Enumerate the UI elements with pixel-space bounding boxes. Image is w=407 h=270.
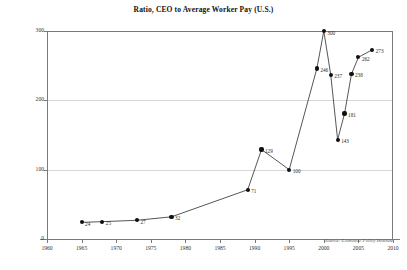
y-tick-label-wrap-200: 200 — [0, 96, 44, 104]
data-point-label: 129 — [265, 148, 273, 154]
x-tick-mark-1985 — [220, 239, 221, 243]
x-tick-mark-1960 — [47, 239, 48, 243]
data-point-label: 100 — [293, 168, 301, 174]
y-tick-label-wrap-100: 100 — [0, 166, 44, 174]
x-tick-mark-1975 — [151, 239, 152, 243]
x-tick-mark-1970 — [116, 239, 117, 243]
y-tick-label-wrap-0: 0 — [0, 235, 44, 243]
x-tick-mark-1980 — [185, 239, 186, 243]
data-point-label: 27 — [140, 219, 145, 225]
data-point-label: 273 — [376, 48, 384, 54]
data-point-marker — [259, 147, 263, 151]
y-tick-mark-300 — [44, 31, 48, 32]
x-tick-mark-1995 — [289, 239, 290, 243]
x-tick-mark-1990 — [255, 239, 256, 243]
x-tick-label: 2010 — [378, 245, 407, 251]
data-point-marker — [329, 73, 333, 77]
chart-container: Ratio, CEO to Average Worker Pay (U.S.) … — [0, 0, 407, 270]
data-point-label: 71 — [251, 188, 256, 194]
data-point-label: 181 — [348, 112, 356, 118]
x-tick-label: 1970 — [101, 245, 131, 251]
x-tick-mark-2010 — [393, 239, 394, 243]
x-tick-label: 1985 — [205, 245, 235, 251]
y-tick-label: 300 — [4, 27, 44, 33]
data-point-marker — [315, 66, 319, 70]
data-point-marker — [246, 188, 250, 192]
x-tick-label: 1975 — [136, 245, 166, 251]
y-tick-label: 100 — [4, 166, 44, 172]
source-note: Source: Economic Policy Institute — [325, 238, 393, 243]
data-point-label: 25 — [106, 220, 111, 226]
y-tick-label: 200 — [4, 96, 44, 102]
data-point-label: 246 — [320, 67, 328, 73]
data-point-label: 262 — [362, 56, 370, 62]
y-tick-label-wrap-300: 300 — [0, 27, 44, 35]
x-tick-label: 1980 — [170, 245, 200, 251]
data-point-marker — [349, 72, 353, 76]
data-point-label: 238 — [355, 72, 363, 78]
x-tick-mark-1965 — [82, 239, 83, 243]
data-point-label: 32 — [175, 215, 180, 221]
data-point-marker — [322, 29, 326, 33]
y-tick-label: 0 — [4, 235, 44, 241]
x-tick-label: 2000 — [309, 245, 339, 251]
data-point-marker — [342, 111, 346, 115]
data-point-marker — [287, 168, 291, 172]
data-point-label: 143 — [341, 138, 349, 144]
data-point-label: 237 — [334, 73, 342, 79]
x-tick-label: 1990 — [240, 245, 270, 251]
data-point-marker — [336, 138, 340, 142]
x-tick-label: 1960 — [32, 245, 62, 251]
y-tick-mark-100 — [44, 170, 48, 171]
x-tick-label: 2005 — [343, 245, 373, 251]
chart-title: Ratio, CEO to Average Worker Pay (U.S.) — [0, 5, 407, 14]
x-tick-label: 1965 — [67, 245, 97, 251]
data-point-marker — [169, 215, 173, 219]
y-tick-mark-200 — [44, 100, 48, 101]
data-point-label: 300 — [327, 30, 335, 36]
data-point-label: 24 — [85, 221, 90, 227]
plot-frame — [47, 31, 393, 239]
x-tick-label: 1995 — [274, 245, 304, 251]
